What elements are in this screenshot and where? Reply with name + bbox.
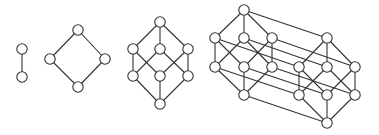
vertex-node bbox=[267, 33, 277, 43]
edge bbox=[244, 95, 327, 123]
vertex-node bbox=[322, 33, 332, 43]
vertex-node bbox=[128, 44, 138, 54]
edge bbox=[50, 59, 78, 87]
vertex-node bbox=[239, 62, 249, 72]
vertex-node bbox=[17, 72, 27, 82]
edge bbox=[78, 30, 105, 59]
vertex-node bbox=[183, 44, 193, 54]
2-cube-edges bbox=[50, 30, 105, 87]
edge bbox=[160, 76, 188, 104]
vertex-node bbox=[322, 90, 332, 100]
edge bbox=[78, 59, 105, 87]
edge bbox=[327, 95, 355, 123]
vertex-node bbox=[155, 44, 165, 54]
edge bbox=[160, 22, 188, 49]
3-cube-edges bbox=[133, 22, 188, 104]
vertex-node bbox=[322, 118, 332, 128]
vertex-node bbox=[350, 90, 360, 100]
vertex-node bbox=[239, 33, 249, 43]
vertex-node bbox=[210, 62, 220, 72]
edge bbox=[215, 10, 244, 38]
vertex-node bbox=[73, 25, 83, 35]
vertex-node bbox=[239, 5, 249, 15]
2-cube-nodes bbox=[45, 25, 110, 92]
vertex-node bbox=[73, 82, 83, 92]
vertex-node bbox=[45, 54, 55, 64]
edge bbox=[215, 67, 244, 95]
vertex-node bbox=[155, 71, 165, 81]
vertex-node bbox=[155, 17, 165, 27]
vertex-node bbox=[350, 62, 360, 72]
vertex-node bbox=[267, 62, 277, 72]
vertex-node bbox=[210, 33, 220, 43]
hypercube-hasse-diagrams bbox=[0, 0, 379, 135]
vertex-node bbox=[239, 90, 249, 100]
4-cube-edges bbox=[215, 10, 355, 123]
edges-layer bbox=[22, 10, 355, 123]
edge bbox=[244, 10, 327, 38]
vertex-node bbox=[17, 44, 27, 54]
vertex-node bbox=[128, 71, 138, 81]
edge bbox=[50, 30, 78, 59]
edge bbox=[133, 76, 160, 104]
vertex-node bbox=[294, 62, 304, 72]
vertex-node bbox=[155, 99, 165, 109]
vertex-node bbox=[183, 71, 193, 81]
vertex-node bbox=[100, 54, 110, 64]
vertex-node bbox=[322, 62, 332, 72]
vertex-node bbox=[294, 90, 304, 100]
